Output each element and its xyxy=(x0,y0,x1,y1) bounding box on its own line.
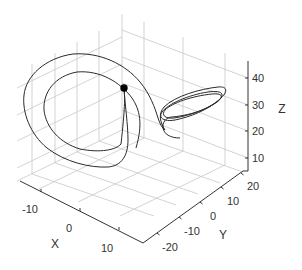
z-axis-label: Z xyxy=(278,102,285,116)
z-tick-label: 20 xyxy=(252,125,264,137)
x-tick-label: -10 xyxy=(22,203,38,215)
axis-labels: -10010X-20-1001020Y10203040Z xyxy=(22,72,286,254)
x-tick-label: 10 xyxy=(101,242,113,254)
y-axis-label: Y xyxy=(219,228,227,242)
y-tick-mark xyxy=(200,202,203,204)
y-tick-mark xyxy=(179,217,182,219)
y-tick-label: -10 xyxy=(184,225,200,237)
back-right-panel-grid xyxy=(122,22,248,165)
y-tick-label: 20 xyxy=(247,180,259,192)
z-tick-label: 10 xyxy=(252,152,264,164)
y-tick-label: 0 xyxy=(210,210,216,222)
y-tick-mark xyxy=(221,187,224,189)
x-axis-label: X xyxy=(51,237,59,251)
lorenz-3d-plot: -10010X-20-1001020Y10203040Z xyxy=(0,0,302,270)
current-point-marker xyxy=(120,84,127,91)
y-tick-mark xyxy=(157,233,160,235)
z-tick-label: 40 xyxy=(252,72,264,84)
y-tick-mark xyxy=(241,173,244,175)
y-tick-label: -20 xyxy=(162,241,178,253)
y-tick-label: 10 xyxy=(227,195,239,207)
x-tick-label: 0 xyxy=(66,222,72,234)
right-lobe-loops xyxy=(160,87,225,138)
z-tick-label: 30 xyxy=(252,99,264,111)
x-axis xyxy=(20,181,143,243)
